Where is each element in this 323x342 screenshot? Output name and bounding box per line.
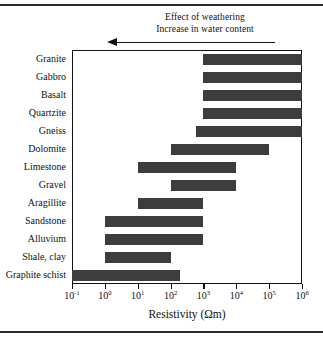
- figure-bottom-rule: [0, 331, 323, 333]
- x-tick-exponent: -1: [74, 289, 79, 296]
- arrow-shaft: [115, 42, 275, 43]
- x-tick-label: 101: [131, 289, 144, 302]
- x-tick-label: 10-1: [64, 289, 79, 302]
- x-axis-tick-labels: 10-1100101102103104105106: [0, 289, 323, 305]
- x-tick-label: 105: [263, 289, 276, 302]
- figure-top-rule: [0, 4, 323, 6]
- x-tick-exponent: 3: [207, 289, 210, 296]
- weathering-annotation: Effect of weathering Increase in water c…: [105, 12, 305, 35]
- category-label: Dolomite: [28, 142, 66, 156]
- category-label: Gneiss: [39, 124, 66, 138]
- x-tick-mantissa: 10: [164, 290, 174, 301]
- x-tick-mantissa: 10: [98, 290, 108, 301]
- plot-frame: [72, 50, 302, 284]
- weathering-arrow: [107, 38, 275, 47]
- x-tick-exponent: 1: [141, 289, 144, 296]
- category-label: Gabbro: [36, 70, 66, 84]
- category-label: Aragillite: [28, 196, 66, 210]
- annotation-line-1: Effect of weathering: [105, 12, 305, 24]
- annotation-line-2: Increase in water content: [105, 24, 305, 36]
- category-label: Quartzite: [29, 106, 66, 120]
- category-label: Granite: [36, 52, 66, 66]
- category-label: Shale, clay: [22, 250, 66, 264]
- category-label: Sandstone: [25, 214, 66, 228]
- category-label: Graphite schist: [6, 268, 66, 282]
- category-labels: GraniteGabbroBasaltQuartziteGneissDolomi…: [0, 50, 69, 284]
- x-tick-mantissa: 10: [230, 290, 240, 301]
- x-axis-title: Resistivity (Ωm): [72, 308, 302, 320]
- x-tick-exponent: 5: [273, 289, 276, 296]
- x-tick-label: 106: [295, 289, 308, 302]
- resistivity-figure: Effect of weathering Increase in water c…: [0, 0, 323, 342]
- x-tick-mantissa: 10: [64, 290, 74, 301]
- x-tick-mantissa: 10: [131, 290, 141, 301]
- x-tick-label: 100: [98, 289, 111, 302]
- x-tick-exponent: 4: [240, 289, 243, 296]
- x-tick-label: 103: [197, 289, 210, 302]
- category-label: Basalt: [41, 88, 66, 102]
- x-tick-mantissa: 10: [197, 290, 207, 301]
- category-label: Gravel: [39, 178, 66, 192]
- x-tick-exponent: 2: [174, 289, 177, 296]
- x-tick-label: 102: [164, 289, 177, 302]
- category-label: Limestone: [24, 160, 66, 174]
- x-tick-exponent: 6: [305, 289, 308, 296]
- category-label: Alluvium: [28, 232, 66, 246]
- x-tick-mantissa: 10: [295, 290, 305, 301]
- x-tick-mantissa: 10: [263, 290, 273, 301]
- x-tick-exponent: 0: [108, 289, 111, 296]
- x-tick-label: 104: [230, 289, 243, 302]
